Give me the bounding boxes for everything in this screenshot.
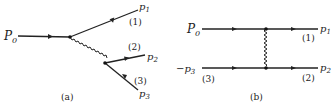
index-2-b: (2) [302,73,315,83]
diagram-a: P0 p1 (1) (2) p2 (3) p3 (a) [3,1,158,102]
label-p2-b: p2 [320,62,331,75]
label-p1-b: p1 [320,23,331,36]
outgoing-line-p1 [70,10,138,37]
index-3-b: (3) [202,74,215,84]
label-p2: p2 [147,51,158,64]
wavy-propagator-b [264,29,267,66]
vertex [103,61,107,65]
caption-a: (a) [61,92,73,102]
arrow-icon [48,34,53,39]
label-p3: p3 [139,88,150,101]
arrow-icon [232,66,237,70]
label-minus-p3: −p3 [176,63,196,76]
label-P0: P0 [3,29,17,45]
index-2: (2) [128,42,141,52]
diagram-b: P0 −p3 (3) p1 (1) p2 (2) (b) [176,22,331,102]
caption-b: (b) [250,92,263,102]
index-1-b: (1) [302,33,315,43]
arrow-icon [291,66,296,70]
arrow-icon [291,27,296,31]
vertex [264,27,268,31]
vertex [68,35,72,39]
label-P0-b: P0 [186,22,200,38]
index-3: (3) [134,76,147,86]
arrow-icon [232,27,237,31]
incoming-line-p0 [18,36,70,37]
wavy-propagator-a [70,37,107,58]
vertex [264,66,268,70]
feynman-diagrams: P0 p1 (1) (2) p2 (3) p3 (a) P0 −p3 (3) p… [0,0,333,106]
index-1: (1) [129,17,142,27]
label-p1: p1 [139,1,150,14]
